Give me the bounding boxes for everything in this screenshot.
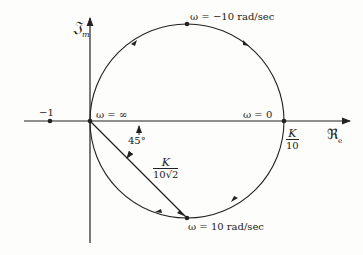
chord-arrow bbox=[177, 210, 184, 216]
diagram-graphics bbox=[0, 0, 363, 255]
imag-axis-label: 𝔍m bbox=[73, 20, 90, 39]
angle-label: 45° bbox=[128, 136, 146, 146]
point-top bbox=[185, 22, 190, 27]
nyquist-diagram: 𝔍m ℜe −1 ω = ∞ ω = 0 ω = −10 rad/sec ω =… bbox=[0, 0, 363, 255]
minus-one-label: −1 bbox=[39, 108, 54, 118]
point-k-over-10 bbox=[282, 119, 287, 124]
k-over-10-numerator: K bbox=[286, 128, 299, 140]
chord-numerator: K bbox=[153, 157, 178, 169]
omega-minus-10-label: ω = −10 rad/sec bbox=[190, 12, 274, 22]
chord-denominator: 10√2 bbox=[153, 169, 178, 180]
angle-arrow-diag bbox=[127, 154, 130, 158]
omega-zero-label: ω = 0 bbox=[243, 110, 272, 120]
omega-infinity-label: ω = ∞ bbox=[96, 110, 127, 120]
real-axis-label: ℜe bbox=[327, 127, 342, 145]
chord-length-fraction: K 10√2 bbox=[153, 157, 178, 180]
point-origin bbox=[88, 119, 93, 124]
point-bottom bbox=[185, 216, 190, 221]
omega-plus-10-label: ω = 10 rad/sec bbox=[188, 222, 264, 232]
direction-arrow-lower-right bbox=[231, 196, 238, 202]
k-over-10-denominator: 10 bbox=[286, 140, 299, 151]
point-minus-one bbox=[48, 119, 53, 124]
k-over-10-fraction: K 10 bbox=[286, 128, 299, 151]
